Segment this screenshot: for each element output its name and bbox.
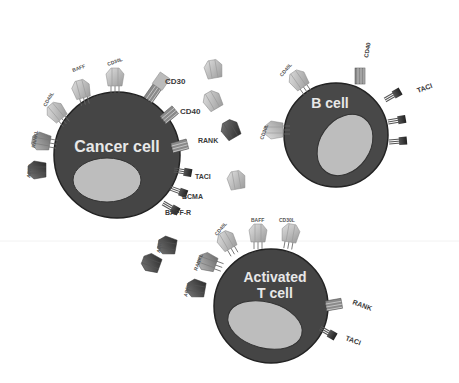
bcell-receptor-taci: TACI — [383, 82, 433, 104]
svg-text:CD30L: CD30L — [279, 217, 295, 223]
free-ligand-cd30l — [203, 59, 224, 80]
svg-text:TACI: TACI — [195, 173, 211, 180]
svg-text:CD40: CD40 — [180, 107, 201, 116]
cell-diagram: Cancer cell CD30 CD40 RANK TACI BCMA BAF… — [0, 0, 459, 383]
cancer-cell-label: Cancer cell — [74, 138, 159, 155]
svg-text:CD40: CD40 — [363, 41, 372, 58]
t-cell-label-line2: T cell — [257, 285, 293, 301]
free-ligand-april-1: APRIL — [155, 235, 177, 256]
svg-text:CD30L: CD30L — [106, 56, 123, 67]
b-cell-label: B cell — [311, 95, 348, 111]
cancer-cell-nucleus — [73, 158, 141, 202]
free-ligand-cd40l — [200, 88, 225, 113]
bcell-receptor-cd40: CD40 — [355, 41, 372, 84]
free-ligand-baff — [226, 170, 247, 191]
t-cell: Activated T cell — [214, 249, 328, 363]
bcell-receptor-2 — [387, 115, 406, 126]
cancer-ligand-april: APRIL — [25, 161, 46, 179]
svg-text:BAFF: BAFF — [71, 63, 86, 73]
free-ligand-april-2 — [140, 251, 163, 274]
svg-text:RANK: RANK — [198, 137, 218, 144]
bcell-receptor-3 — [389, 136, 408, 146]
cancer-receptor-cd40: CD40 — [160, 106, 201, 124]
svg-text:TACI: TACI — [416, 82, 433, 94]
tcell-ligand-baff: BAFF — [249, 217, 267, 249]
svg-text:BAFF-R: BAFF-R — [165, 209, 191, 216]
svg-text:RANK: RANK — [352, 298, 373, 311]
cancer-ligand-cd30l: CD30L — [106, 56, 124, 93]
tcell-ligand-cd40l: CD40L — [213, 221, 242, 259]
cancer-cell: Cancer cell — [54, 92, 180, 218]
cancer-receptor-cd30: CD30 — [143, 72, 186, 103]
tcell-ligand-april: APRIL — [182, 278, 206, 299]
free-ligand-rankl — [218, 117, 243, 142]
cancer-receptor-baffr: BAFF-R — [161, 200, 191, 216]
tcell-ligand-cd30l: CD30L — [279, 217, 301, 250]
tcell-receptor-rank: RANK — [325, 298, 373, 312]
t-cell-label-line1: Activated — [243, 269, 306, 285]
svg-text:TACI: TACI — [345, 334, 362, 346]
tcell-receptor-taci: TACI — [318, 325, 362, 347]
tcell-ligand-rankl: RANKL — [192, 250, 225, 275]
b-cell: B cell — [284, 83, 388, 187]
svg-text:BCMA: BCMA — [182, 193, 203, 200]
svg-text:BAFF: BAFF — [251, 217, 264, 223]
cancer-receptor-bcma: BCMA — [169, 184, 203, 200]
svg-text:CD30: CD30 — [165, 77, 186, 86]
